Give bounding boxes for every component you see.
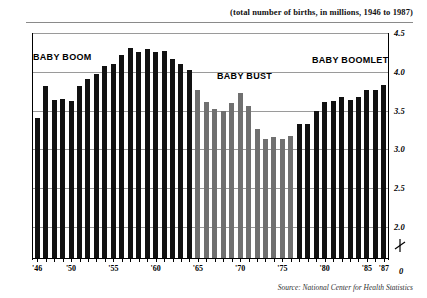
y-axis-zero-label: 0 (399, 266, 403, 276)
chart-figure: (total number of births, in millions, 19… (0, 0, 427, 298)
x-axis-tick (291, 259, 292, 262)
x-axis-label-1946: '46 (32, 264, 42, 273)
x-axis-label-1975: '75 (277, 264, 287, 273)
x-axis-tick (350, 259, 351, 262)
bar-1948 (52, 100, 57, 258)
bar-1964 (187, 70, 192, 259)
bar-1979 (314, 111, 319, 258)
x-axis-tick (96, 259, 97, 262)
bar-1986 (373, 90, 378, 258)
axis-break-icon (392, 238, 408, 254)
bar-1961 (162, 51, 167, 258)
bar-1958 (136, 52, 141, 258)
x-axis-tick (265, 259, 266, 262)
bar-1976 (288, 136, 293, 258)
x-axis-tick (274, 259, 275, 262)
x-axis-tick (113, 259, 114, 262)
x-axis-tick (240, 259, 241, 262)
x-axis-tick (164, 259, 165, 262)
bar-1952 (85, 79, 90, 258)
x-axis-tick (316, 259, 317, 262)
x-axis-tick (257, 259, 258, 262)
bar-1947 (43, 86, 48, 258)
annotation-baby-boom: BABY BOOM (33, 52, 92, 62)
x-axis-tick (325, 259, 326, 262)
bar-1987 (381, 85, 386, 258)
x-axis-tick (342, 259, 343, 262)
x-axis-label-1950: '50 (66, 264, 76, 273)
bar-1963 (178, 64, 183, 258)
annotation-baby-bust: BABY BUST (217, 71, 272, 81)
x-axis-tick (384, 259, 385, 262)
bar-1980 (322, 102, 327, 258)
y-axis-right-line (388, 33, 389, 260)
bar-1967 (212, 109, 217, 258)
x-axis-label-1965: '65 (193, 264, 203, 273)
bar-1970 (238, 93, 243, 258)
x-axis-tick (46, 259, 47, 262)
x-axis-tick (299, 259, 300, 262)
x-axis-tick (80, 259, 81, 262)
x-axis-tick (249, 259, 250, 262)
x-axis-tick (156, 259, 157, 262)
x-axis-label-1970: '70 (235, 264, 245, 273)
title-divider (26, 22, 413, 23)
x-axis-line (32, 258, 389, 259)
bar-1946 (35, 118, 40, 258)
chart-title: (total number of births, in millions, 19… (230, 7, 413, 17)
bar-1962 (170, 59, 175, 258)
bar-1978 (305, 124, 310, 258)
bar-1955 (111, 64, 116, 258)
bar-1972 (255, 129, 260, 258)
x-axis-tick (206, 259, 207, 262)
y-axis-label-3.0: 3.0 (394, 144, 405, 154)
x-axis-tick (189, 259, 190, 262)
x-axis-label-1980: '80 (319, 264, 329, 273)
bar-1977 (297, 124, 302, 258)
x-axis-tick (173, 259, 174, 262)
x-axis-label-1985: '85 (362, 264, 372, 273)
bar-1983 (348, 100, 353, 258)
x-axis-tick (333, 259, 334, 262)
y-axis-label-2.0: 2.0 (394, 222, 405, 232)
x-axis-tick (181, 259, 182, 262)
x-axis-tick (147, 259, 148, 262)
x-axis-tick (63, 259, 64, 262)
bar-1973 (263, 139, 268, 259)
bar-1965 (195, 90, 200, 258)
y-axis-label-4.5: 4.5 (394, 28, 405, 38)
x-axis-tick (122, 259, 123, 262)
y-axis-label-2.5: 2.5 (394, 183, 405, 193)
y-axis-label-4.0: 4.0 (394, 67, 405, 77)
x-axis-tick (88, 259, 89, 262)
bar-1969 (229, 103, 234, 258)
x-axis-tick (37, 259, 38, 262)
bar-1960 (153, 52, 158, 258)
x-axis-label-1987: '87 (379, 264, 389, 273)
x-axis-tick (282, 259, 283, 262)
bar-1968 (221, 111, 226, 258)
bar-1982 (339, 97, 344, 258)
x-axis-tick (71, 259, 72, 262)
x-axis-tick (139, 259, 140, 262)
x-axis-tick (308, 259, 309, 262)
bar-1954 (102, 66, 107, 258)
bar-1957 (128, 48, 133, 258)
bar-1974 (271, 137, 276, 258)
source-note: Source: National Center for Health Stati… (278, 283, 413, 292)
x-axis-tick (367, 259, 368, 262)
x-axis-tick (105, 259, 106, 262)
plot-area (33, 33, 388, 258)
bar-1981 (331, 101, 336, 259)
bar-1985 (364, 90, 369, 258)
bar-1975 (280, 139, 285, 259)
bar-1971 (246, 106, 251, 258)
x-axis-tick (215, 259, 216, 262)
bar-1966 (204, 102, 209, 258)
y-axis-label-3.5: 3.5 (394, 106, 405, 116)
x-axis-tick (198, 259, 199, 262)
x-axis-label-1960: '60 (150, 264, 160, 273)
x-axis-tick (223, 259, 224, 262)
bar-1953 (94, 74, 99, 258)
bar-1984 (356, 97, 361, 258)
